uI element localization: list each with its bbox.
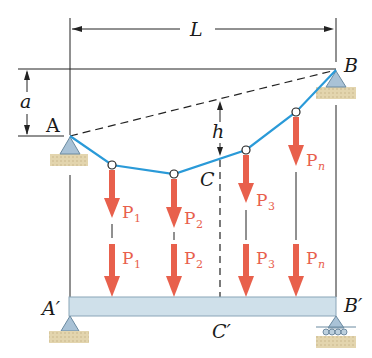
span-label: L	[189, 18, 203, 40]
svg-text:P: P	[122, 202, 133, 222]
support-a-label: A	[45, 114, 60, 136]
beam	[69, 297, 336, 316]
svg-text:1: 1	[134, 212, 141, 225]
beam-c-label: C′	[212, 320, 232, 342]
svg-text:1: 1	[134, 258, 141, 271]
depth-label: h	[212, 120, 224, 142]
svg-text:P: P	[256, 248, 267, 268]
svg-text:3: 3	[268, 258, 275, 271]
beam-a-label: A′	[40, 297, 61, 319]
svg-text:2: 2	[196, 258, 203, 271]
svg-text:P: P	[306, 248, 317, 268]
svg-text:P: P	[184, 208, 195, 228]
svg-text:P: P	[306, 150, 317, 170]
svg-text:n: n	[318, 160, 325, 173]
support-b-label: B	[343, 54, 358, 76]
sag-offset-label: a	[20, 90, 31, 112]
svg-text:P: P	[256, 190, 267, 210]
point-c-label: C	[200, 168, 215, 190]
svg-text:3: 3	[268, 200, 275, 213]
diagram-canvas: L a h A B C P1 P	[0, 0, 372, 358]
svg-text:P: P	[122, 248, 133, 268]
cable-beam-diagram: L a h A B C P1 P	[0, 0, 372, 358]
svg-text:2: 2	[196, 218, 203, 231]
beam-b-label: B′	[343, 294, 363, 316]
svg-text:P: P	[184, 248, 195, 268]
svg-text:n: n	[318, 258, 325, 271]
